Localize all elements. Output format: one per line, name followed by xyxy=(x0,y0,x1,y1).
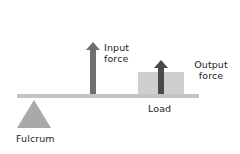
lever-beam xyxy=(17,94,199,98)
fulcrum-triangle xyxy=(17,100,51,128)
input-force-label-line2: force xyxy=(104,53,129,64)
load-label: Load xyxy=(148,103,171,114)
fulcrum-label: Fulcrum xyxy=(16,133,55,144)
output-force-label: Output force xyxy=(190,59,232,81)
output-force-label-line1: Output xyxy=(190,59,232,70)
output-force-label-line2: force xyxy=(190,70,232,81)
input-force-arrow-icon xyxy=(86,42,100,94)
input-force-label-line1: Input xyxy=(104,42,129,53)
input-force-label: Input force xyxy=(104,42,129,64)
